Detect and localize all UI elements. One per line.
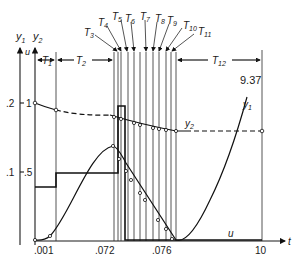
tick-x-0.076: .076 xyxy=(152,245,172,256)
label-T8: T8 xyxy=(155,13,165,25)
switching-diagram: y1 y2 u .2 1 .1 .5 .001 .072 .076 10 t xyxy=(0,0,300,265)
tick-y1-0.1: .1 xyxy=(6,167,15,178)
interval-labels: T1 T2 T3 T4 T5 T6 T7 T8 T9 T10 T11 T12 xyxy=(42,11,229,67)
label-T1: T1 xyxy=(42,55,52,67)
u-axis-label: u xyxy=(25,47,30,57)
u-control-curve xyxy=(35,106,262,240)
label-T7: T7 xyxy=(140,11,151,23)
label-T6: T6 xyxy=(125,13,135,25)
label-T3: T3 xyxy=(84,27,94,39)
label-T10: T10 xyxy=(183,20,197,32)
tick-y1-0.2: .2 xyxy=(6,98,15,109)
y1-curve-label: y1 xyxy=(242,99,252,111)
y2-axis-label: y2 xyxy=(32,30,43,44)
t-axis-label: t xyxy=(288,236,292,247)
label-T11: T11 xyxy=(198,26,211,38)
tick-y2-0.5: .5 xyxy=(24,167,33,178)
label-T5: T5 xyxy=(112,11,122,23)
y1-axis-label: y1 xyxy=(15,30,26,44)
interval-boundaries xyxy=(56,50,262,241)
label-T9: T9 xyxy=(167,15,177,27)
y2-curve-label: y2 xyxy=(184,118,194,130)
tick-x-0.001: .001 xyxy=(34,245,54,256)
y1-final-value: 9.37 xyxy=(240,74,261,86)
tick-y2-1: 1 xyxy=(26,98,32,109)
tick-x-0.072: .072 xyxy=(95,245,115,256)
tick-x-10: 10 xyxy=(255,245,267,256)
u-curve-label: u xyxy=(228,228,234,239)
interval-arrows xyxy=(38,20,260,60)
label-T4: T4 xyxy=(98,17,108,29)
y2-curve xyxy=(33,101,264,133)
